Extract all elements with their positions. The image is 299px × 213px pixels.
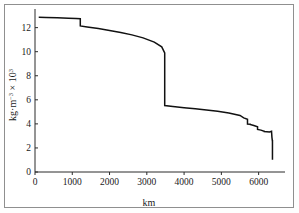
y-tick-label: 6 bbox=[26, 95, 31, 105]
y-axis-title: kg·m−3 × 103 bbox=[7, 69, 18, 121]
x-tick-label: 6000 bbox=[249, 177, 268, 187]
plot-area: 0100020003000400050006000 024681012 km k… bbox=[0, 0, 299, 213]
y-tick-label: 4 bbox=[26, 119, 31, 129]
y-tick-label: 8 bbox=[26, 71, 31, 81]
y-axis-title-base: kg·m bbox=[7, 100, 18, 121]
x-axis-title: km bbox=[143, 197, 156, 208]
x-tick-label: 1000 bbox=[63, 177, 82, 187]
density-depth-line-chart: 0100020003000400050006000 024681012 km k… bbox=[0, 0, 299, 213]
svg-text:kg·m−3 × 103: kg·m−3 × 103 bbox=[7, 69, 18, 121]
y-axis-title-exponent-2: 3 bbox=[7, 69, 14, 72]
y-tick-label: 0 bbox=[26, 167, 31, 177]
density-curve bbox=[39, 17, 273, 159]
x-axis-tick-labels: 0100020003000400050006000 bbox=[33, 177, 269, 187]
x-tick-label: 3000 bbox=[137, 177, 156, 187]
y-tick-label: 2 bbox=[26, 143, 31, 153]
y-axis-tick-labels: 024681012 bbox=[22, 23, 32, 177]
y-tick-label: 12 bbox=[22, 23, 32, 33]
x-tick-label: 0 bbox=[33, 177, 38, 187]
y-axis-title-mid: × 10 bbox=[7, 72, 18, 93]
figure-container: 0100020003000400050006000 024681012 km k… bbox=[0, 0, 299, 213]
x-tick-label: 4000 bbox=[175, 177, 194, 187]
y-axis-title-exponent-1: −3 bbox=[7, 93, 14, 100]
x-tick-label: 5000 bbox=[212, 177, 231, 187]
y-tick-label: 10 bbox=[22, 47, 32, 57]
x-tick-label: 2000 bbox=[100, 177, 119, 187]
